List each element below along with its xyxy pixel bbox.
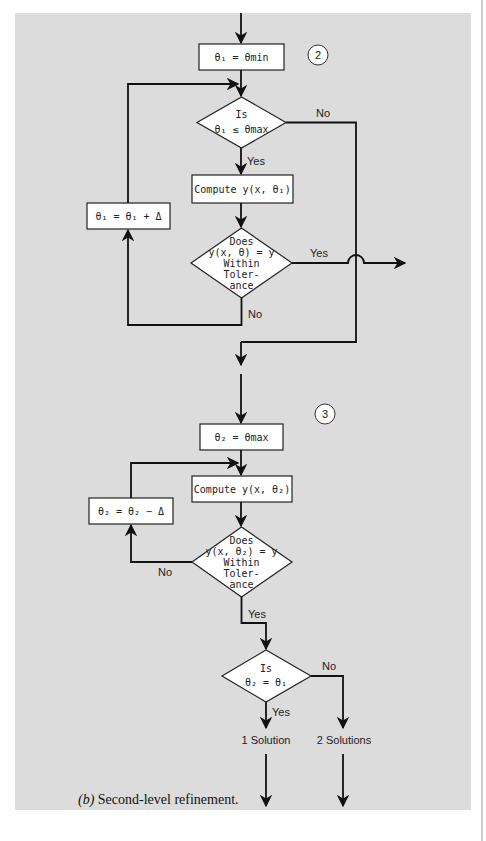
svg-text:3: 3: [322, 408, 328, 420]
edge-tol2-yes: [242, 597, 267, 649]
edge-equal-no: [311, 676, 343, 728]
compute-theta1-box: Compute y(x, θ₁): [192, 175, 293, 203]
figure-caption: (b) Second-level refinement.: [78, 792, 239, 808]
outcome-one-solution: 1 Solution: [242, 734, 291, 746]
svg-text:Does: Does: [229, 236, 253, 247]
svg-text:θ₁ = θ₁ + Δ: θ₁ = θ₁ + Δ: [95, 211, 161, 222]
svg-text:Does: Does: [229, 535, 253, 546]
flowchart: θ₁ = θmin 2 Is θ₁ ≤ θmax No Yes Compute …: [0, 0, 486, 841]
range-check-diamond: Is θ₁ ≤ θmax: [197, 97, 286, 148]
svg-text:Compute y(x, θ₂): Compute y(x, θ₂): [194, 484, 290, 495]
theta1-init-label: θ₁ = θmin: [214, 52, 268, 63]
equality-check-diamond: Is θ₂ = θ₁: [222, 650, 311, 702]
theta2-init-box: θ₂ = θmax: [200, 424, 283, 450]
edge-tol2-no: [131, 525, 192, 562]
svg-text:y(x, θ) = y: y(x, θ) = y: [208, 247, 274, 258]
outcome-two-solutions: 2 Solutions: [317, 734, 372, 746]
equal-no-label: No: [322, 660, 336, 672]
svg-text:Compute y(x, θ₁): Compute y(x, θ₁): [194, 184, 290, 195]
tolerance-diamond-1: Does y(x, θ) = y Within Toler- ance: [191, 228, 292, 298]
compute-theta2-box: Compute y(x, θ₂): [192, 476, 292, 502]
svg-text:Toler-: Toler-: [223, 568, 259, 579]
step-marker-3: 3: [315, 404, 335, 424]
svg-text:Is: Is: [235, 109, 247, 120]
tol2-no-label: No: [158, 566, 172, 578]
svg-text:Within: Within: [223, 557, 259, 568]
tol1-no-label: No: [248, 308, 262, 320]
tol2-yes-label: Yes: [248, 608, 266, 620]
edge-tol1-yes-exit: [292, 255, 405, 263]
svg-text:θ₂ = θmax: θ₂ = θmax: [214, 432, 268, 443]
svg-text:2: 2: [315, 49, 321, 61]
svg-text:ance: ance: [229, 280, 253, 291]
svg-text:ance: ance: [229, 579, 253, 590]
svg-text:Is: Is: [260, 663, 272, 674]
svg-text:θ₂ = θ₁: θ₂ = θ₁: [245, 677, 287, 688]
svg-text:y(x, θ₂) = y: y(x, θ₂) = y: [205, 546, 277, 557]
range-no-label: No: [316, 107, 330, 119]
svg-text:θ₁ ≤ θmax: θ₁ ≤ θmax: [214, 124, 268, 135]
svg-text:Within: Within: [223, 258, 259, 269]
theta1-increment-box: θ₁ = θ₁ + Δ: [87, 203, 170, 229]
tol1-yes-label: Yes: [310, 247, 328, 259]
range-yes-label: Yes: [247, 155, 265, 167]
svg-text:Toler-: Toler-: [223, 269, 259, 280]
equal-yes-label: Yes: [272, 706, 290, 718]
theta1-init-box: θ₁ = θmin: [199, 44, 284, 70]
svg-text:θ₂ = θ₂ − Δ: θ₂ = θ₂ − Δ: [98, 506, 164, 517]
step-marker-2: 2: [308, 45, 328, 65]
tolerance-diamond-2: Does y(x, θ₂) = y Within Toler- ance: [192, 527, 292, 597]
theta2-decrement-box: θ₂ = θ₂ − Δ: [89, 498, 173, 524]
